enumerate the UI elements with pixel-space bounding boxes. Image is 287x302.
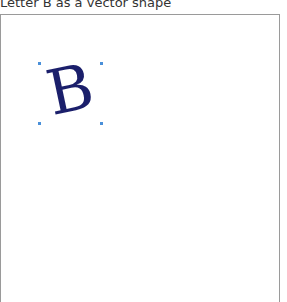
selection-handle-top-right[interactable] [100, 62, 103, 65]
selection-handle-top-left[interactable] [38, 62, 41, 65]
selection-handle-bottom-right[interactable] [100, 122, 103, 125]
page-title: Letter B as a vector shape [0, 0, 171, 11]
selection-handle-bottom-left[interactable] [38, 122, 41, 125]
letter-b-vector-shape[interactable]: B [39, 63, 101, 124]
letter-b-glyph: B [34, 50, 107, 131]
drawing-canvas[interactable]: B [0, 14, 280, 302]
